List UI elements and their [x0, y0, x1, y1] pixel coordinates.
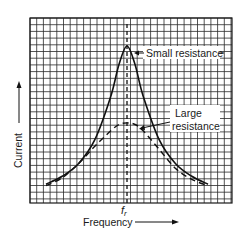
large-resistance-label-line1: Large [175, 107, 202, 119]
large-resistance-label-line2: resistance [172, 120, 220, 132]
x-axis-label: Frequency [83, 216, 133, 228]
small-resistance-label: Small resistance [146, 47, 223, 59]
large-resistance-arrowhead-icon [139, 125, 145, 130]
y-axis-label: Current [12, 133, 24, 168]
y-axis-arrow-icon [17, 81, 22, 88]
resonance-chart: Small resistance Large resistance fr Fre… [0, 0, 245, 242]
x-axis-arrow-icon [172, 220, 179, 225]
